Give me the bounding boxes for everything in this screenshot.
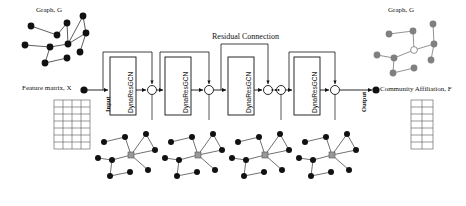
ellipsis-dots [272, 89, 280, 91]
diagram-vector-layer [0, 0, 466, 206]
left-input-graph [22, 13, 90, 67]
output-label: Output [360, 92, 367, 112]
dynaresgcn-block-2-label: DynaResGCN [182, 72, 189, 113]
feature-matrix-label: Feature matrix, X [22, 84, 72, 92]
intermediate-graph-2 [162, 131, 225, 179]
right-graph-label: Graph, G [388, 6, 414, 14]
dynaresgcn-block-1-label: DynaResGCN [127, 72, 134, 113]
right-output-graph [374, 21, 438, 77]
intermediate-graph-1 [95, 131, 158, 179]
dynaresgcn-block-3-label: DynaResGCN [245, 72, 252, 113]
dynaresgcn-blocks [110, 57, 320, 115]
left-graph-label: Graph, G [36, 6, 62, 14]
dynaresgcn-block-4-label: DynaResGCN [311, 72, 318, 113]
intermediate-graph-4 [296, 131, 359, 179]
intermediate-graph-3 [229, 131, 292, 179]
output-connector [372, 86, 379, 93]
input-connector [80, 86, 108, 93]
residual-connection-label: Residual Connection [212, 32, 279, 41]
community-affiliation-label: Community Affiliation, F [380, 85, 452, 93]
output-matrix-grid [411, 100, 433, 149]
feature-matrix-grid [54, 100, 90, 149]
diagram-canvas: Graph, G Graph, G Feature matrix, X Resi… [0, 0, 466, 206]
input-label: Input [104, 96, 111, 112]
